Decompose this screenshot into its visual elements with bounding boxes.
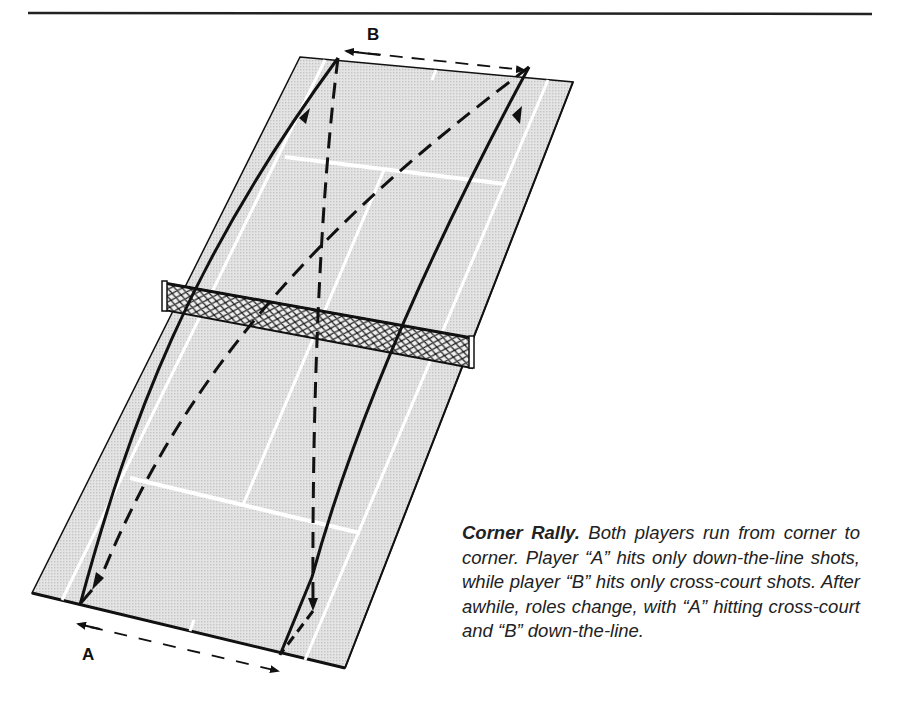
net-post-right	[469, 336, 474, 368]
header-rule	[28, 13, 872, 14]
label-player-b: B	[367, 25, 379, 44]
label-player-a: A	[82, 645, 94, 664]
net-post-left	[162, 281, 167, 311]
figure-caption: Corner Rally. Both players run from corn…	[462, 521, 860, 644]
caption-title: Corner Rally.	[462, 522, 580, 543]
